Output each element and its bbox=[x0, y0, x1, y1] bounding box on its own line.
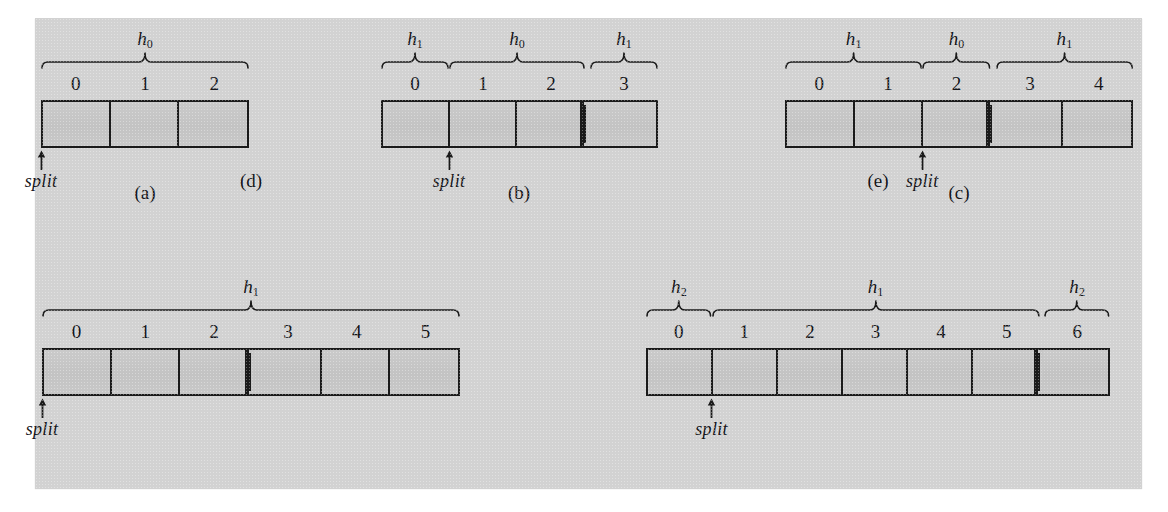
array-cell[interactable] bbox=[995, 102, 1063, 146]
brace-c-2: h1 bbox=[996, 52, 1133, 68]
brace-d-0: h1 bbox=[42, 300, 460, 316]
brace-label: h1 bbox=[785, 28, 922, 52]
brace-label-subscript: 1 bbox=[877, 285, 883, 299]
brace-label-subscript: 1 bbox=[855, 37, 861, 51]
brace-label-subscript: 1 bbox=[253, 285, 259, 299]
array-cell[interactable] bbox=[973, 350, 1038, 394]
array-cell[interactable] bbox=[908, 350, 973, 394]
cell-index-label: 1 bbox=[449, 72, 517, 96]
split-arrow-icon bbox=[706, 398, 717, 418]
brace-label-base: h bbox=[1057, 28, 1067, 49]
array-cell[interactable] bbox=[112, 350, 180, 394]
array-cell[interactable] bbox=[589, 102, 656, 146]
figure-root: h0012split(a)h1h0h10123split(b)h1h0h1012… bbox=[0, 0, 1168, 512]
cell-index-label: 3 bbox=[254, 320, 323, 344]
array-cell[interactable] bbox=[390, 350, 458, 394]
brace-label: h2 bbox=[1044, 276, 1110, 300]
brace-label: h1 bbox=[996, 28, 1133, 52]
split-marker-a: split bbox=[11, 150, 71, 192]
array-cell[interactable] bbox=[713, 350, 778, 394]
cell-index-label: 2 bbox=[517, 72, 585, 96]
brace-label-base: h bbox=[671, 276, 681, 297]
cell-index-label: 1 bbox=[712, 320, 778, 344]
array-cell[interactable] bbox=[44, 350, 112, 394]
panel-d: h1012345split bbox=[42, 278, 460, 438]
brace-label-base: h bbox=[616, 28, 626, 49]
array-cell[interactable] bbox=[648, 350, 713, 394]
array-cell[interactable] bbox=[254, 350, 322, 394]
cell-index-label: 2 bbox=[180, 320, 249, 344]
index-row: 01234 bbox=[785, 72, 1133, 96]
brace-label: h2 bbox=[646, 276, 712, 300]
panel-e: h2h1h20123456split bbox=[646, 278, 1110, 438]
split-marker-e: split bbox=[682, 398, 742, 440]
brace-label-base: h bbox=[407, 28, 417, 49]
panel-caption-a: (a) bbox=[110, 182, 180, 204]
split-arrow-icon bbox=[37, 398, 48, 418]
brace-row: h2h1h2 bbox=[646, 278, 1110, 320]
array-cell[interactable] bbox=[450, 102, 517, 146]
array-cell[interactable] bbox=[778, 350, 843, 394]
brace-label-base: h bbox=[868, 276, 878, 297]
panel-b: h1h0h10123split bbox=[381, 30, 658, 190]
brace-label-base: h bbox=[137, 28, 147, 49]
array-box-c bbox=[785, 100, 1133, 148]
panel-c: h1h0h101234split bbox=[785, 30, 1133, 190]
brace-label-subscript: 1 bbox=[626, 37, 632, 51]
brace-c-1: h0 bbox=[922, 52, 991, 68]
brace-label: h0 bbox=[449, 28, 585, 52]
cell-index-label: 3 bbox=[996, 72, 1065, 96]
panel-caption-c: (c) bbox=[924, 182, 994, 204]
array-cell[interactable] bbox=[517, 102, 584, 146]
brace-e-1: h1 bbox=[712, 300, 1040, 316]
brace-label-subscript: 2 bbox=[1079, 285, 1085, 299]
array-cell[interactable] bbox=[383, 102, 450, 146]
array-cell[interactable] bbox=[180, 350, 248, 394]
panel-inner: h1h0h10123split bbox=[381, 30, 658, 190]
cell-index-label: 2 bbox=[180, 72, 249, 96]
array-cell[interactable] bbox=[855, 102, 923, 146]
panel-caption-b: (b) bbox=[484, 182, 554, 204]
cell-index-label: 4 bbox=[322, 320, 391, 344]
cell-index-label: 3 bbox=[843, 320, 909, 344]
array-cell[interactable] bbox=[179, 102, 247, 146]
brace-b-2: h1 bbox=[590, 52, 658, 68]
cell-index-label: 1 bbox=[854, 72, 923, 96]
panel-caption-e: (e) bbox=[843, 170, 913, 192]
array-cell[interactable] bbox=[1043, 350, 1108, 394]
cell-index-label: 4 bbox=[908, 320, 974, 344]
array-cell[interactable] bbox=[843, 350, 908, 394]
index-row: 0123 bbox=[381, 72, 658, 96]
brace-row: h1h0h1 bbox=[785, 30, 1133, 72]
cell-index-label: 6 bbox=[1044, 320, 1110, 344]
brace-label: h1 bbox=[590, 28, 658, 52]
array-cell[interactable] bbox=[787, 102, 855, 146]
brace-c-0: h1 bbox=[785, 52, 922, 68]
index-row: 012345 bbox=[42, 320, 460, 344]
array-cell[interactable] bbox=[111, 102, 179, 146]
panel-inner: h1h0h101234split bbox=[785, 30, 1133, 190]
index-row: 0123456 bbox=[646, 320, 1110, 344]
brace-e-2: h2 bbox=[1044, 300, 1110, 316]
brace-label-subscript: 2 bbox=[681, 285, 687, 299]
brace-label: h0 bbox=[922, 28, 991, 52]
array-cell[interactable] bbox=[322, 350, 390, 394]
brace-e-0: h2 bbox=[646, 300, 712, 316]
cell-index-label: 0 bbox=[42, 320, 111, 344]
split-label: split bbox=[12, 419, 72, 440]
array-cell[interactable] bbox=[1063, 102, 1131, 146]
brace-label: h0 bbox=[41, 28, 249, 52]
panel-inner: h0012split bbox=[41, 30, 249, 190]
array-cell[interactable] bbox=[923, 102, 991, 146]
brace-label-subscript: 0 bbox=[519, 37, 525, 51]
split-label: split bbox=[11, 171, 71, 192]
split-arrow-icon bbox=[36, 150, 47, 170]
array-cell[interactable] bbox=[43, 102, 111, 146]
brace-label-base: h bbox=[1069, 276, 1079, 297]
brace-label-subscript: 0 bbox=[147, 37, 153, 51]
cell-index-label: 4 bbox=[1064, 72, 1133, 96]
cell-index-label: 1 bbox=[111, 320, 180, 344]
index-row: 012 bbox=[41, 72, 249, 96]
brace-label: h1 bbox=[712, 276, 1040, 300]
panel-a: h0012split bbox=[41, 30, 249, 190]
